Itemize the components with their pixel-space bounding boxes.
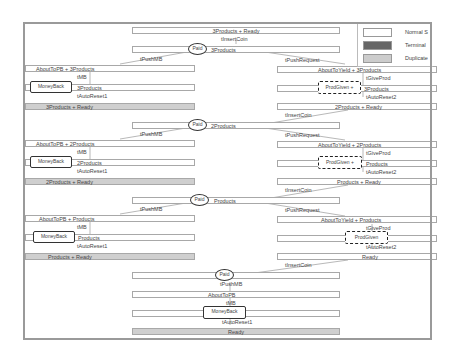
state-label: AboutToPB + Products [39, 216, 95, 222]
state-label: AboutToYield + 3Products [318, 67, 381, 73]
transition-insert-coin: tInsertCoin [285, 262, 312, 268]
state-about-to-yield: AboutToYield + 2Products [277, 141, 437, 148]
state-label: Products [214, 198, 236, 204]
legend-swatch-terminal [363, 41, 392, 50]
transition-auto-reset1: tAutoReset1 [222, 319, 252, 325]
paid-marker: Paid [215, 269, 234, 281]
state-about-to-yield: AboutToYield + 3Products [277, 66, 437, 73]
state-label: 2Products + Ready [335, 104, 382, 110]
state-label: 3Products + Ready [133, 28, 339, 34]
state-label: Ready [133, 329, 339, 335]
money-back-marker: MoneyBack [203, 306, 246, 319]
transition-mb: tMB [77, 224, 87, 230]
transition-push-request: tPushRequest [285, 57, 320, 63]
state-about-to-pb: AboutToPB + 2Products [25, 140, 195, 147]
transition-auto-reset1: tAutoReset1 [77, 243, 107, 249]
legend-item-normal: Normal S [363, 28, 438, 38]
state-about-to-pb: AboutToPB + 3Products [25, 65, 195, 72]
money-back-marker: MoneyBack [30, 156, 72, 168]
state-label: 3Products [211, 47, 236, 53]
state-paid-products: Products [132, 197, 340, 204]
state-label: 2Products [211, 123, 236, 129]
transition-push-mb: tPushMB [140, 206, 162, 212]
transition-push-request: tPushRequest [285, 207, 320, 213]
state-duplicate-ready: Ready [132, 328, 340, 335]
transition-mb: tMB [77, 74, 87, 80]
state-label: 3Products [77, 85, 102, 91]
paid-marker: Paid [190, 194, 209, 206]
legend-swatch-normal [363, 28, 392, 37]
money-back-marker: MoneyBack [33, 231, 75, 243]
state-duplicate-ready: 2Products + Ready [25, 178, 195, 185]
state-3products-ready-top: 3Products + Ready [132, 27, 340, 34]
prod-given-marker: ProdGiven + [318, 81, 361, 94]
legend-swatch-duplicate [363, 54, 392, 63]
legend-label: Normal S [405, 29, 428, 35]
state-label: AboutToYield + Products [321, 217, 381, 223]
state-label: Products [366, 161, 388, 167]
state-label: Products [78, 235, 100, 241]
state-label: AboutToYield + 2Products [318, 142, 381, 148]
state-label: AboutToPB + 2Products [36, 141, 95, 147]
state-label: AboutToPB [208, 292, 236, 298]
state-label: Ready [362, 254, 378, 260]
transition-insert-coin: tInsertCoin [285, 187, 312, 193]
transition-auto-reset1: tAutoReset1 [77, 93, 107, 99]
state-next-ready: Products + Ready [277, 178, 437, 185]
state-label: 3Products [364, 86, 389, 92]
transition-auto-reset1: tAutoReset1 [77, 168, 107, 174]
state-label: Products + Ready [48, 254, 92, 260]
transition-give-prod: tGiveProd [366, 150, 390, 156]
transition-mb: tMB [77, 149, 87, 155]
legend: Normal S Terminal Duplicate [357, 24, 433, 67]
transition-push-mb: tPushMB [140, 131, 162, 137]
legend-label: Duplicate [405, 55, 428, 61]
transition-auto-reset2: tAutoReset2 [366, 169, 396, 175]
money-back-marker: MoneyBack [30, 81, 72, 93]
transition-push-request: tPushRequest [285, 132, 320, 138]
legend-item-duplicate: Duplicate [363, 54, 438, 64]
state-label: AboutToPB + 3Products [36, 66, 95, 72]
state-paid-2products: 2Products [132, 122, 340, 129]
paid-marker: Paid [188, 43, 207, 55]
state-label: Products + Ready [337, 179, 381, 185]
paid-marker: Paid [188, 119, 207, 131]
state-duplicate-ready: Products + Ready [25, 253, 195, 260]
transition-insert-coin: tInsertCoin [221, 36, 248, 42]
state-duplicate-ready: 3Products + Ready [25, 103, 195, 110]
transition-push-mb: tPushMB [220, 281, 242, 287]
prod-given-marker: ProdGiven + [318, 156, 362, 169]
prod-given-marker: ProdGiven [345, 231, 388, 244]
state-next-ready: 2Products + Ready [277, 103, 437, 110]
transition-auto-reset2: tAutoReset2 [366, 94, 396, 100]
legend-item-terminal: Terminal [363, 41, 438, 51]
state-about-to-pb: AboutToPB + Products [25, 215, 195, 222]
state-label: 3Products + Ready [46, 104, 93, 110]
state-label: 2Products + Ready [46, 179, 93, 185]
legend-label: Terminal [405, 42, 426, 48]
transition-give-prod: tGiveProd [366, 75, 390, 81]
state-label: 2Products [77, 160, 102, 166]
state-about-to-pb: AboutToPB [132, 291, 340, 298]
state-paid [132, 272, 340, 279]
transition-push-mb: tPushMB [140, 56, 162, 62]
state-ready: Ready [277, 253, 437, 260]
transition-insert-coin: tInsertCoin [285, 112, 312, 118]
state-paid-3products: 3Products [132, 46, 340, 53]
transition-auto-reset2: tAutoReset2 [366, 244, 396, 250]
state-about-to-yield: AboutToYield + Products [277, 216, 437, 223]
